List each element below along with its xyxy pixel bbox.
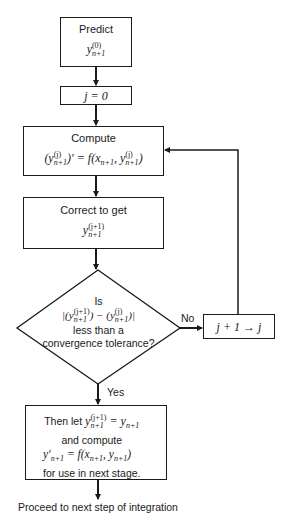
init-label: j = 0 (61, 89, 131, 104)
footer-text: Proceed to next step of integration (18, 501, 178, 513)
predict-box: Predict y(0)n+1 (60, 17, 132, 67)
increment-box: j + 1 → j (203, 314, 275, 339)
finalize-line2: and compute (43, 433, 140, 447)
decision-line3: less than a (17, 324, 180, 337)
predict-label: Predict (61, 23, 131, 35)
arrow-loop-back (165, 150, 238, 314)
yes-label: Yes (107, 386, 124, 398)
decision-text: Is |(y(j+1)n+1) − (y(j)n+1)| less than a… (17, 295, 180, 350)
decision-line2: |(y(j+1)n+1) − (y(j)n+1)| (17, 308, 180, 324)
finalize-line1: Then let y(j+1)n+1 = yn+1 (43, 414, 140, 433)
decision-line4: convergence tolerance? (17, 337, 180, 350)
increment-label: j + 1 → j (204, 320, 274, 335)
compute-math: (y(j)n+1)′ = f(xn+1, y(j)n+1) (24, 151, 163, 167)
finalize-line3: y′n+1 = f(xn+1, yn+1) (43, 447, 140, 466)
correct-label: Correct to get (24, 204, 163, 216)
predict-math: y(0)n+1 (61, 42, 131, 58)
finalize-line4: for use in next stage. (43, 466, 140, 480)
compute-box: Compute (y(j)n+1)′ = f(xn+1, y(j)n+1) (23, 126, 164, 176)
compute-label: Compute (24, 132, 163, 144)
no-label: No (181, 312, 194, 324)
decision-line1: Is (17, 295, 180, 308)
finalize-box: Then let y(j+1)n+1 = yn+1 and compute y′… (25, 405, 167, 480)
correct-math: y(j+1)n+1 (24, 223, 163, 239)
correct-box: Correct to get y(j+1)n+1 (23, 197, 164, 249)
finalize-text: Then let y(j+1)n+1 = yn+1 and compute y′… (43, 414, 140, 480)
init-box: j = 0 (60, 86, 132, 105)
